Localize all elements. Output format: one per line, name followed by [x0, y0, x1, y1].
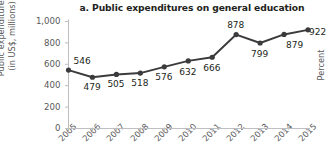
- data-point-marker: [210, 55, 215, 60]
- chart-figure: a. Public expenditures on general educat…: [0, 0, 332, 164]
- data-point-marker: [305, 27, 310, 32]
- data-point-marker: [234, 32, 239, 37]
- data-point-marker: [114, 72, 119, 77]
- data-point-marker: [138, 70, 143, 75]
- data-point-marker: [66, 67, 71, 72]
- data-point-marker: [90, 75, 95, 80]
- series-markers: [66, 27, 311, 80]
- plot-area: [0, 0, 332, 164]
- series-path: [69, 30, 309, 77]
- series-line: [69, 30, 309, 77]
- data-point-marker: [281, 32, 286, 37]
- data-point-marker: [258, 40, 263, 45]
- data-point-marker: [162, 64, 167, 69]
- data-point-marker: [186, 58, 191, 63]
